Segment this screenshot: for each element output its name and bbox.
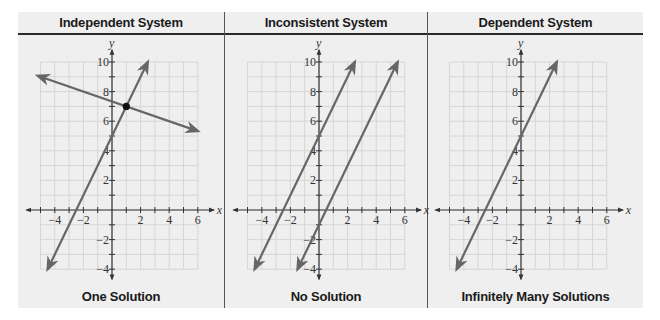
x-tick-label: 6 bbox=[402, 213, 408, 227]
grid bbox=[450, 62, 607, 269]
x-tick-label: 4 bbox=[373, 213, 379, 227]
y-tick-label: −4 bbox=[96, 262, 109, 276]
panel-dependent: Dependent System −4−2246−4−2246810xy Inf… bbox=[428, 12, 643, 308]
y-tick-label: 2 bbox=[103, 173, 109, 187]
grid bbox=[248, 62, 405, 269]
y-tick-label: 6 bbox=[512, 114, 518, 128]
panel-caption: Infinitely Many Solutions bbox=[428, 289, 643, 304]
y-tick-label: −2 bbox=[96, 233, 109, 247]
x-axis-label: x bbox=[625, 203, 632, 217]
systems-of-equations-figure: Independent System −4−2246−4−2246810xy O… bbox=[18, 12, 643, 308]
x-tick-label: −2 bbox=[486, 213, 499, 227]
panel-caption: No Solution bbox=[225, 289, 427, 304]
y-tick-label: 2 bbox=[512, 173, 518, 187]
y-tick-label: 8 bbox=[310, 85, 316, 99]
y-tick-label: 6 bbox=[310, 114, 316, 128]
panel-independent: Independent System −4−2246−4−2246810xy O… bbox=[18, 12, 224, 308]
x-tick-label: −4 bbox=[48, 213, 61, 227]
x-tick-label: 4 bbox=[575, 213, 581, 227]
y-tick-label: −4 bbox=[505, 262, 518, 276]
panel-caption: One Solution bbox=[18, 289, 224, 304]
y-tick-label: 10 bbox=[304, 55, 316, 69]
graph-dependent: −4−2246−4−2246810xy bbox=[428, 12, 643, 308]
x-tick-label: 4 bbox=[166, 213, 172, 227]
x-tick-label: 6 bbox=[604, 213, 610, 227]
y-axis-label: y bbox=[108, 36, 115, 50]
intersection-point bbox=[123, 103, 130, 110]
y-axis-label: y bbox=[517, 36, 524, 50]
y-tick-label: −2 bbox=[505, 233, 518, 247]
x-tick-label: 2 bbox=[547, 213, 553, 227]
grid bbox=[41, 62, 198, 269]
x-axis-label: x bbox=[216, 203, 223, 217]
x-tick-label: −4 bbox=[457, 213, 470, 227]
x-tick-label: 2 bbox=[345, 213, 351, 227]
panel-inconsistent: Inconsistent System −4−2246−4−2246810xy … bbox=[225, 12, 427, 308]
x-tick-label: −2 bbox=[77, 213, 90, 227]
y-tick-label: 8 bbox=[103, 85, 109, 99]
y-tick-label: 6 bbox=[103, 114, 109, 128]
x-tick-label: 6 bbox=[195, 213, 201, 227]
y-tick-label: 10 bbox=[506, 55, 518, 69]
x-tick-label: −4 bbox=[255, 213, 268, 227]
y-tick-label: 8 bbox=[512, 85, 518, 99]
y-tick-label: 10 bbox=[97, 55, 109, 69]
y-tick-label: −4 bbox=[303, 262, 316, 276]
graph-independent: −4−2246−4−2246810xy bbox=[18, 12, 224, 308]
y-axis-label: y bbox=[315, 36, 322, 50]
graph-inconsistent: −4−2246−4−2246810xy bbox=[225, 12, 427, 308]
x-tick-label: 2 bbox=[138, 213, 144, 227]
x-tick-label: −2 bbox=[284, 213, 297, 227]
y-tick-label: 2 bbox=[310, 173, 316, 187]
